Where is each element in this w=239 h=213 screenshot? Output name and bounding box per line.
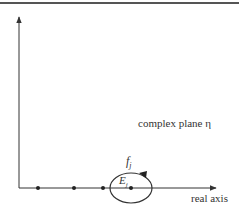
diagram-canvas: fj Ej complex plane η real axis: [0, 0, 239, 213]
real-axis-point: [72, 186, 76, 190]
point-label: Ej: [118, 174, 128, 189]
contour-label-sub: j: [128, 161, 132, 170]
point-label-sub: j: [125, 181, 128, 189]
plane-label: complex plane η: [138, 117, 211, 129]
real-axis-label: real axis: [191, 192, 228, 204]
contour-label: fj: [126, 154, 132, 170]
real-axis-point-ej: [129, 186, 133, 190]
real-axis-point: [101, 186, 105, 190]
real-axis-point: [36, 186, 40, 190]
